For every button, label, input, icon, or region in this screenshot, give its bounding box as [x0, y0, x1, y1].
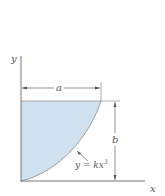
curve-equation: y = kx3: [74, 158, 108, 170]
area-diagram: y x a b y = kx3: [0, 0, 165, 196]
arrow-up-icon: [114, 102, 117, 107]
dim-a-label: a: [56, 82, 62, 93]
arrow-right-icon: [95, 87, 100, 90]
dim-b-label: b: [112, 134, 118, 145]
y-axis-label: y: [10, 53, 17, 64]
equation-base: y = kx: [74, 160, 104, 170]
x-axis-label: x: [150, 183, 156, 194]
arrow-down-icon: [114, 175, 117, 180]
equation-exponent: 3: [104, 158, 108, 165]
arrow-left-icon: [22, 87, 27, 90]
